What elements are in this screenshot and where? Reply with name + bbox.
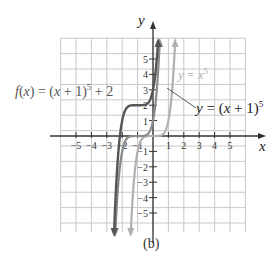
y-tick-label: 3 [143,85,148,96]
x-tick-label: −3 [101,140,112,151]
x-tick-label: −4 [86,140,97,151]
y-tick-label: 1 [143,116,148,127]
arrowhead-icon [172,38,179,47]
y-axis-arrow-icon [150,21,156,29]
f-label: f(x) = (x + 1)5 + 2 [15,82,113,100]
shift-label: y = (x + 1)5 [196,99,263,117]
x-tick-label: −5 [71,140,82,151]
y-tick-label: −3 [137,177,148,188]
x-tick-label: 5 [228,140,233,151]
x-axis-label: x [259,138,266,155]
graph-canvas: −5−4−3−2−11234554321−1−2−3−4−5 [0,0,279,265]
y-tick-label: −4 [137,193,148,204]
shift-exp: 5 [259,99,264,109]
x-tick-label: 2 [181,140,186,151]
x-tick-label: 4 [212,140,217,151]
arrowhead-icon [127,228,134,237]
y-tick-label: −5 [137,208,148,219]
y-axis-label: y [138,12,145,29]
base-label: y = x5 [178,66,208,83]
x-tick-label: 1 [166,140,171,151]
figure-caption: (b) [143,236,159,252]
base-exp: 5 [203,66,208,76]
y-tick-label: 4 [143,69,148,80]
y-tick-label: 5 [143,54,148,65]
curve-f [114,42,158,233]
y-tick-label: −2 [137,162,148,173]
f-exp: 5 [87,82,92,92]
x-tick-label: 3 [197,140,202,151]
